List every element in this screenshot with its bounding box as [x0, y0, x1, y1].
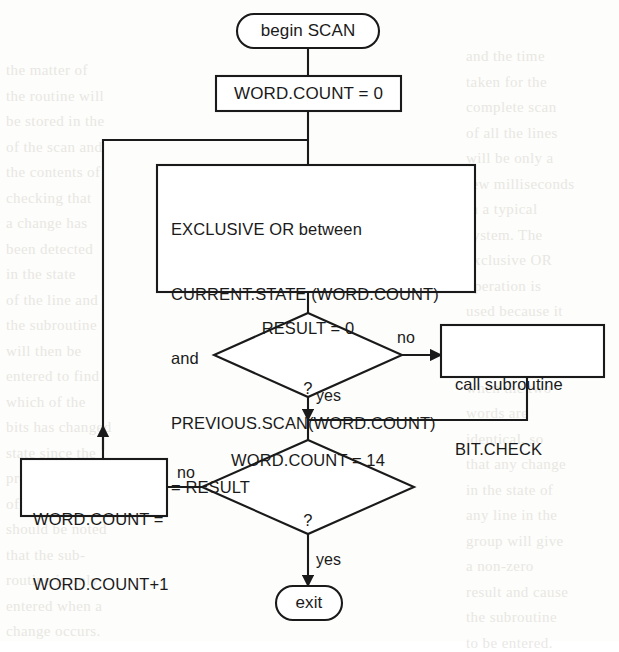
edge-label-result-no: no	[397, 329, 415, 347]
edge-label-result-yes: yes	[316, 387, 341, 405]
node-xor-shape	[157, 165, 475, 292]
node-begin-shape	[237, 14, 379, 48]
node-bit-check-shape	[441, 325, 604, 377]
node-result-check-shape	[214, 313, 402, 397]
node-count-check-shape	[202, 440, 414, 534]
edge-label-count-yes: yes	[316, 551, 341, 569]
edge-label-count-no: no	[177, 464, 195, 482]
node-init-shape	[216, 76, 401, 111]
node-increment-shape	[21, 459, 167, 516]
node-exit-shape	[276, 586, 342, 620]
